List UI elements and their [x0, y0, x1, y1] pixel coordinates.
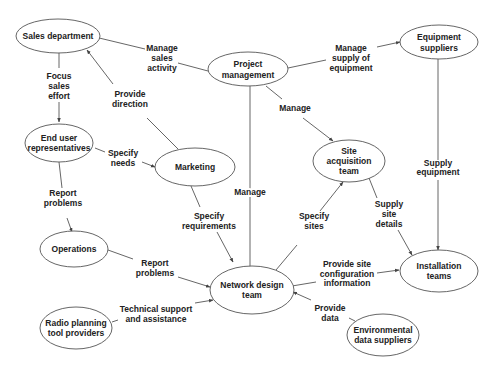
svg-text:Provide: Provide [314, 303, 345, 313]
edge-manage-supply-left [288, 60, 326, 68]
edge-label-provide-data: Provide data [314, 303, 345, 323]
svg-text:Specify: Specify [108, 148, 139, 158]
svg-text:Focus: Focus [46, 71, 71, 81]
svg-text:Specify: Specify [194, 211, 225, 221]
svg-text:Operations: Operations [52, 244, 97, 254]
edge-label-provide-site-config: Provide site configuration information [320, 259, 374, 288]
svg-text:Marketing: Marketing [175, 162, 215, 172]
node-sales-department: Sales department [16, 19, 100, 53]
edge-label-specify-requirements: Specify requirements [182, 211, 236, 231]
node-environmental-data-suppliers: Environmental data suppliers [347, 314, 419, 356]
svg-text:sites: sites [304, 221, 324, 231]
edge-provide-site-config-left [292, 282, 316, 286]
svg-text:Report: Report [49, 188, 77, 198]
node-marketing: Marketing [155, 148, 235, 186]
svg-text:details: details [376, 219, 403, 229]
node-network-design-team: Network design team [210, 266, 294, 314]
svg-text:sales: sales [151, 53, 173, 63]
edge-report-problems-1-arrow [67, 218, 72, 232]
svg-text:Provide: Provide [114, 89, 145, 99]
svg-text:management: management [222, 70, 275, 80]
edge-label-manage-sales-activity: Manage sales activity [146, 43, 178, 73]
node-radio-planning-tool-providers: Radio planning tool providers [40, 307, 112, 349]
svg-text:needs: needs [111, 158, 136, 168]
svg-text:Radio planning: Radio planning [45, 318, 106, 328]
svg-text:supply of: supply of [332, 53, 370, 63]
edge-label-specify-needs: Specify needs [108, 148, 139, 168]
svg-text:End user: End user [41, 133, 78, 143]
edge-specify-requirements-top [191, 186, 200, 207]
edge-specify-requirements-arrow [217, 232, 233, 262]
node-project-management: Project management [208, 52, 288, 86]
svg-text:team: team [242, 290, 262, 300]
svg-text:Installation: Installation [417, 261, 462, 271]
svg-text:team: team [339, 166, 359, 176]
svg-text:data: data [321, 313, 339, 323]
svg-text:Site: Site [341, 146, 357, 156]
edge-supply-site-details-arrow [398, 230, 412, 255]
svg-text:Environmental: Environmental [353, 325, 412, 335]
edge-provide-direction-bottom [147, 118, 178, 149]
svg-text:tool providers: tool providers [48, 328, 105, 338]
svg-text:effort: effort [48, 91, 70, 101]
svg-text:Manage: Manage [279, 103, 311, 113]
edge-label-report-problems-1: Report problems [44, 188, 83, 208]
edge-provide-site-config-arrow [377, 270, 399, 273]
node-equipment-suppliers: Equipment suppliers [400, 25, 478, 59]
svg-text:representatives: representatives [28, 143, 91, 153]
svg-text:data suppliers: data suppliers [354, 335, 412, 345]
svg-text:Sales department: Sales department [23, 31, 94, 41]
edge-provide-direction-top [87, 50, 113, 84]
edge-provide-data-arrow [293, 292, 311, 300]
edge-specify-sites-bottom [276, 245, 297, 270]
node-operations: Operations [40, 231, 108, 267]
svg-text:equipment: equipment [417, 167, 460, 177]
svg-text:Report: Report [141, 258, 169, 268]
edge-label-manage-network: Manage [234, 187, 266, 197]
svg-text:direction: direction [112, 99, 148, 109]
svg-text:problems: problems [44, 198, 83, 208]
svg-text:acquisition: acquisition [327, 156, 372, 166]
edge-supply-site-details-top [369, 178, 377, 198]
svg-text:Network design: Network design [220, 280, 283, 290]
edge-label-report-problems-2: Report problems [136, 258, 175, 278]
svg-text:sales: sales [48, 81, 70, 91]
svg-text:Manage: Manage [335, 43, 367, 53]
svg-text:Supply: Supply [375, 199, 404, 209]
edge-report-problems-2-arrow [178, 277, 210, 287]
node-site-acquisition-team: Site acquisition team [313, 140, 385, 182]
edge-technical-support-left [112, 320, 118, 322]
edge-manage-sales-activity [178, 63, 208, 71]
svg-text:Provide site: Provide site [323, 259, 371, 269]
edge-manage-site-arrow [303, 118, 333, 141]
svg-text:Equipment: Equipment [417, 32, 461, 42]
svg-text:Project: Project [234, 59, 263, 69]
svg-text:Specify: Specify [299, 211, 330, 221]
edge-label-manage-site: Manage [279, 103, 311, 113]
node-end-user-representatives: End user representatives [25, 124, 93, 162]
svg-text:information: information [324, 278, 371, 288]
edge-label-provide-direction: Provide direction [112, 89, 148, 109]
svg-text:problems: problems [136, 268, 175, 278]
svg-text:Manage: Manage [234, 187, 266, 197]
svg-text:Manage: Manage [146, 43, 178, 53]
svg-text:equipment: equipment [330, 63, 373, 73]
edge-manage-site-top [266, 86, 282, 99]
edge-specify-needs-left [95, 148, 105, 152]
edge-label-focus-sales-effort: Focus sales effort [46, 71, 71, 101]
edge-label-specify-sites: Specify sites [299, 211, 330, 231]
svg-text:activity: activity [147, 63, 177, 73]
edge-manage-sales-activity-arrow [95, 37, 145, 49]
svg-text:Technical support: Technical support [120, 304, 193, 314]
edge-specify-needs-arrow [142, 162, 155, 167]
svg-text:requirements: requirements [182, 221, 236, 231]
svg-text:teams: teams [427, 271, 452, 281]
edge-specify-sites-arrow [320, 182, 343, 211]
edge-report-problems-2-left [108, 250, 133, 259]
svg-text:suppliers: suppliers [420, 43, 458, 53]
svg-text:site: site [382, 209, 397, 219]
edge-label-supply-equipment: Supply equipment [417, 158, 460, 177]
stakeholder-diagram: Sales department Project management Equi… [0, 0, 498, 372]
edge-report-problems-1-top [59, 162, 62, 188]
edge-label-manage-supply-of-equipment: Manage supply of equipment [330, 43, 373, 73]
